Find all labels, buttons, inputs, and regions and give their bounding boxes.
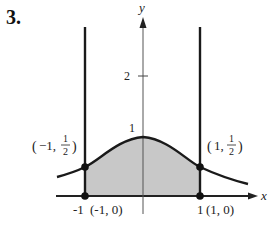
y-tick-label-2: 2 [124, 69, 130, 83]
coord-x: −1, [39, 138, 56, 153]
point-label-left-bottom: (-1, 0) [90, 202, 123, 217]
x-axis-arrow-icon [248, 193, 258, 200]
fraction-numerator: 1 [229, 133, 234, 144]
y-axis-arrow-icon [140, 17, 147, 28]
x-tick-label-neg1: -1 [73, 202, 84, 217]
point-label-right-top: ( 1, 1 2 ) [207, 133, 243, 157]
paren-open: ( [32, 139, 37, 155]
point-right-top [196, 163, 204, 171]
point-label-left-top: ( −1, 1 2 ) [32, 133, 77, 157]
y-axis-label: y [137, 0, 145, 15]
fraction-denominator: 2 [63, 146, 68, 157]
x-tick-label-1: 1 [197, 202, 204, 217]
coord-x: 1, [214, 138, 224, 153]
x-axis-label: x [260, 188, 267, 203]
paren-open: ( [207, 139, 212, 155]
point-label-right-bottom: (1, 0) [206, 202, 234, 217]
fraction-denominator: 2 [229, 146, 234, 157]
paren-close: ) [238, 139, 243, 155]
point-left-top [81, 163, 89, 171]
graph: y x 2 1 -1 1 (-1, 0) (1, 0) ( −1, 1 2 ) … [0, 0, 274, 231]
paren-close: ) [72, 139, 77, 155]
y-tick-label-1: 1 [129, 121, 135, 135]
point-left-bottom [81, 192, 89, 200]
point-right-bottom [196, 192, 204, 200]
fraction-numerator: 1 [63, 133, 68, 144]
